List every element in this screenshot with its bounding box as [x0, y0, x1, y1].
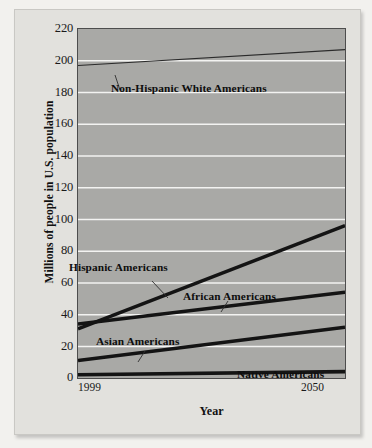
- y-tick-20: 20: [27, 339, 73, 352]
- y-tick-220: 220: [27, 22, 73, 35]
- series-line-hispanic: [78, 226, 345, 329]
- series-label-african: African Americans: [183, 290, 276, 302]
- scanned-page-background: Non-Hispanic White Americans Hispanic Am…: [0, 0, 372, 448]
- series-label-non-hispanic-white: Non-Hispanic White Americans: [111, 82, 267, 94]
- y-axis-title: Millions of people in U.S. population: [43, 82, 55, 302]
- series-line-non-hispanic-white: [78, 50, 345, 66]
- x-axis-title: Year: [77, 404, 346, 419]
- series-label-native: Native Americans: [237, 368, 324, 380]
- x-tick-1999: 1999: [78, 381, 101, 393]
- y-tick-40: 40: [27, 307, 73, 320]
- y-tick-0: 0: [27, 371, 73, 384]
- y-tick-200: 200: [27, 53, 73, 66]
- plot-area: [77, 28, 346, 379]
- series-label-hispanic: Hispanic Americans: [69, 261, 168, 273]
- chart-figure-card: Non-Hispanic White Americans Hispanic Am…: [14, 9, 361, 435]
- series-label-asian: Asian Americans: [96, 335, 179, 347]
- gridlines: [78, 61, 345, 347]
- x-tick-2050: 2050: [301, 381, 324, 393]
